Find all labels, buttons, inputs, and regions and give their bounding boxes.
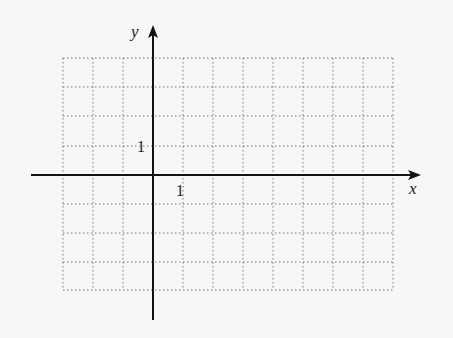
x-tick-label: 1 [176, 182, 184, 199]
y-tick-label: 1 [137, 138, 145, 155]
y-axis-label: y [129, 22, 139, 41]
coordinate-plane: x y 1 1 [0, 0, 453, 338]
x-axis-label: x [408, 179, 417, 198]
y-axis [148, 25, 158, 320]
